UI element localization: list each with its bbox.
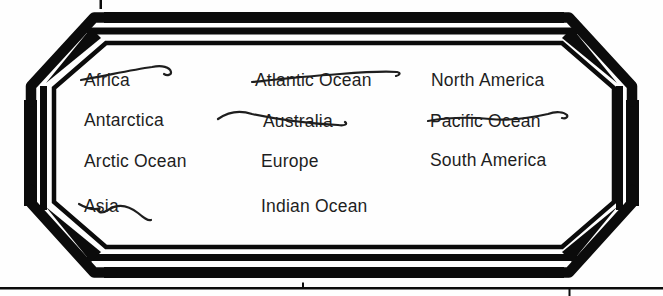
strike-asia bbox=[79, 204, 151, 220]
scanned-worksheet-page: Africa Antarctica Arctic Ocean Asia Atla… bbox=[0, 0, 663, 296]
strike-australia bbox=[218, 112, 346, 125]
strike-atlantic bbox=[252, 72, 400, 82]
cross-out-strokes bbox=[0, 0, 663, 296]
strike-pacific bbox=[428, 112, 567, 121]
strike-africa bbox=[81, 66, 171, 80]
